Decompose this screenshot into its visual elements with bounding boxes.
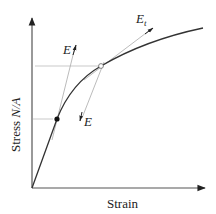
proportional-limit-point: [54, 116, 59, 121]
stress-strain-diagram: E Et E Strain Stress N/A: [0, 0, 216, 214]
stress-strain-curve: [32, 28, 203, 188]
tangent-modulus-label: Et: [135, 11, 147, 28]
tangent-modulus-arrow-icon: [145, 28, 153, 34]
initial-modulus-line: [52, 47, 75, 140]
tangent-point: [99, 64, 104, 69]
initial-modulus-label: E: [62, 42, 71, 57]
x-axis-label: Strain: [107, 196, 139, 211]
secant-modulus-label: E: [83, 114, 92, 129]
tangent-modulus-line: [84, 30, 150, 80]
initial-modulus-arrow-icon: [73, 45, 76, 55]
y-axis-label: Stress N/A: [8, 97, 23, 152]
secant-modulus-arrow-icon: [80, 112, 82, 121]
